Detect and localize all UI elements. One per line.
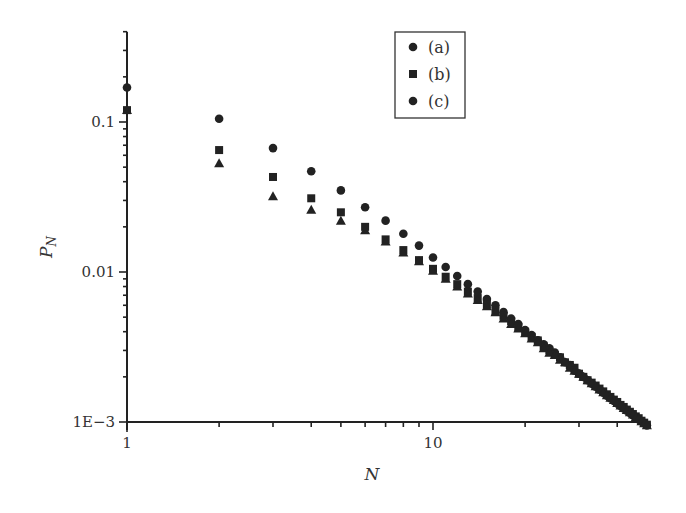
legend-square-icon	[409, 70, 417, 78]
data-point-square	[337, 208, 345, 216]
data-point-circle	[453, 272, 462, 281]
legend-label: (c)	[428, 92, 449, 111]
x-tick-label: 1	[122, 434, 132, 452]
data-point-circle	[361, 203, 370, 212]
data-point-triangle	[268, 191, 278, 200]
data-point-square	[215, 146, 223, 154]
legend-circle-icon	[409, 97, 418, 106]
series-a	[123, 83, 651, 430]
data-point-triangle	[336, 216, 346, 225]
legend-circle-icon	[409, 43, 418, 52]
x-axis-title: N	[364, 464, 381, 484]
axes: 1101E−30.010.1	[72, 32, 648, 452]
data-point-circle	[441, 263, 450, 272]
data-points	[122, 83, 652, 430]
y-axis-title-subscript: N	[45, 236, 59, 248]
data-point-circle	[307, 167, 316, 176]
scatter-plot: 1101E−30.010.1 (a)(b)(c) N PN	[0, 0, 686, 513]
data-point-circle	[269, 144, 278, 153]
data-point-square	[307, 194, 315, 202]
series-b	[123, 106, 651, 429]
y-tick-label: 0.1	[91, 113, 115, 131]
data-point-triangle	[214, 158, 224, 167]
data-point-circle	[123, 83, 132, 92]
data-point-circle	[464, 280, 473, 289]
legend-label: (a)	[428, 38, 450, 57]
data-point-circle	[215, 115, 224, 124]
x-tick-label: 10	[423, 434, 442, 452]
y-tick-label: 1E−3	[72, 413, 115, 431]
y-axis-title: PN	[36, 236, 59, 259]
y-axis-title-main: PN	[36, 236, 59, 259]
series-c	[122, 105, 652, 429]
data-point-circle	[399, 229, 408, 238]
data-point-square	[269, 173, 277, 181]
data-point-circle	[381, 216, 390, 225]
data-point-circle	[415, 241, 424, 250]
legend-label: (b)	[428, 65, 451, 84]
data-point-circle	[429, 253, 438, 262]
y-tick-label: 0.01	[82, 263, 115, 281]
legend: (a)(b)(c)	[395, 32, 465, 118]
data-point-circle	[337, 186, 346, 195]
data-point-triangle	[306, 205, 316, 214]
